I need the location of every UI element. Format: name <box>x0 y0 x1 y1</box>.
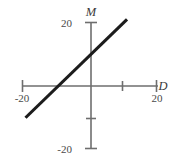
y-axis-top-tick-label: 20 <box>61 17 73 29</box>
x-axis-right-tick-label: 20 <box>152 92 164 104</box>
x-axis-title: D <box>157 79 167 93</box>
coordinate-plot-figure: 20 -20 -20 20 M D <box>0 0 176 163</box>
data-line-m-vs-d <box>26 19 128 117</box>
plot-canvas: 20 -20 -20 20 M D <box>0 0 176 163</box>
x-axis-left-tick-label: -20 <box>15 92 30 104</box>
y-axis-title: M <box>85 5 97 19</box>
y-axis-bottom-tick-label: -20 <box>57 143 72 155</box>
